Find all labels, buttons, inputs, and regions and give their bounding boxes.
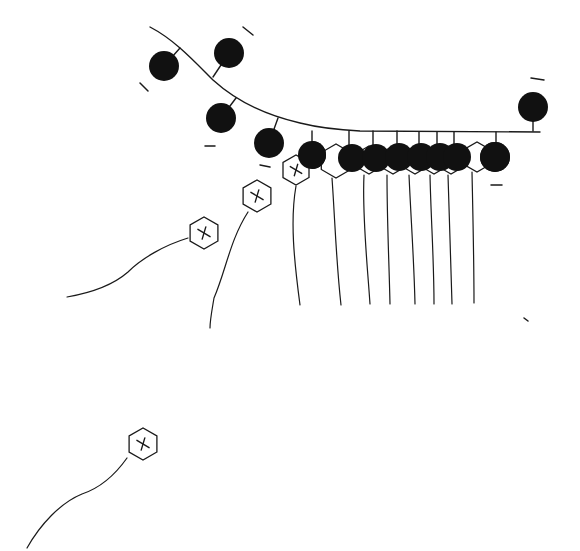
ion-tail (430, 175, 434, 304)
positive-ion (129, 428, 157, 460)
minus-sign-icon (531, 78, 544, 80)
minus-sign-icon (140, 83, 148, 91)
ion-tail (472, 172, 474, 303)
negative-ion (518, 92, 548, 122)
adsorption-diagram (0, 0, 580, 551)
negative-ion (214, 38, 244, 68)
positive-ion (243, 180, 271, 212)
ion-tail (293, 186, 300, 305)
negative-ion (149, 51, 179, 81)
positive-ion (190, 217, 218, 249)
ion-tail (448, 175, 452, 304)
negative-ion (206, 103, 236, 133)
negative-ion (338, 144, 366, 172)
minus-sign-icon (243, 27, 253, 35)
ion-tail (332, 178, 341, 305)
ion-tail (364, 175, 370, 304)
ion-tail (27, 458, 127, 548)
ion-tail (409, 175, 415, 304)
minus-sign-icon (260, 165, 270, 167)
negative-ion (480, 142, 510, 172)
tail-layer (27, 172, 474, 548)
minus-sign-icon (524, 318, 528, 321)
ion-tail (67, 238, 188, 297)
negative-ion (443, 143, 471, 171)
negative-ion (254, 128, 284, 158)
positive-ion-layer (129, 142, 490, 460)
ion-tail (387, 175, 390, 304)
